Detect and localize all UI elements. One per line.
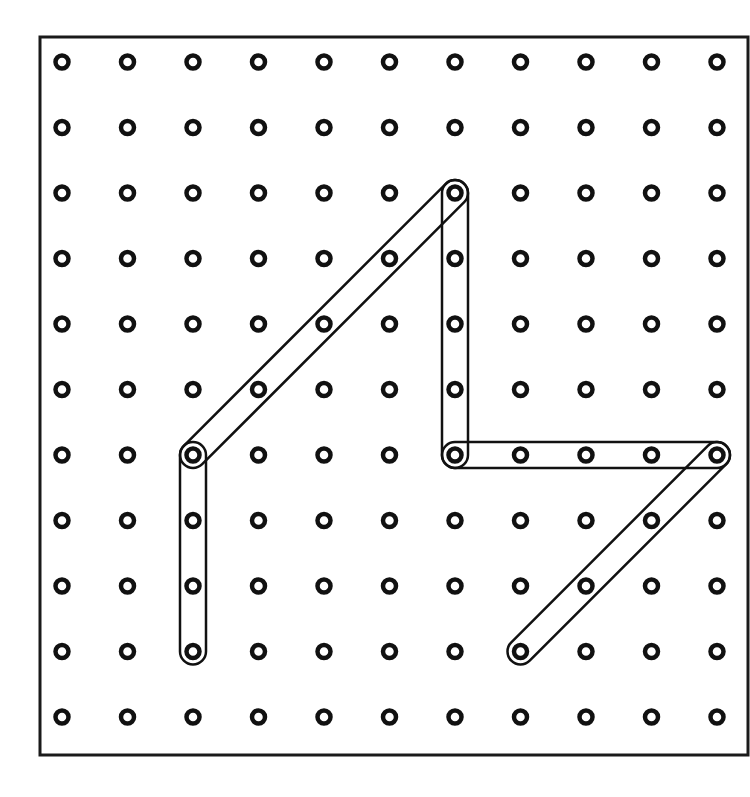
peg-icon bbox=[645, 121, 658, 134]
peg-icon bbox=[252, 56, 265, 69]
peg-icon bbox=[121, 56, 134, 69]
peg-icon bbox=[383, 580, 396, 593]
peg-icon bbox=[121, 711, 134, 724]
peg-icon bbox=[121, 514, 134, 527]
peg-icon bbox=[56, 252, 69, 265]
peg-icon bbox=[580, 252, 593, 265]
peg-icon bbox=[711, 711, 724, 724]
peg-icon bbox=[187, 383, 200, 396]
peg-icon bbox=[449, 514, 462, 527]
peg-icon bbox=[645, 318, 658, 331]
peg-icon bbox=[318, 449, 331, 462]
peg-icon bbox=[449, 187, 462, 200]
peg-icon bbox=[449, 56, 462, 69]
peg-icon bbox=[318, 318, 331, 331]
peg-icon bbox=[187, 252, 200, 265]
peg-icon bbox=[252, 252, 265, 265]
peg-icon bbox=[514, 318, 527, 331]
peg-icon bbox=[318, 56, 331, 69]
geoboard bbox=[0, 0, 750, 797]
peg-icon bbox=[318, 121, 331, 134]
peg-icon bbox=[449, 252, 462, 265]
peg-icon bbox=[252, 383, 265, 396]
peg-icon bbox=[645, 645, 658, 658]
peg-icon bbox=[56, 56, 69, 69]
peg-icon bbox=[121, 383, 134, 396]
peg-icon bbox=[121, 645, 134, 658]
peg-icon bbox=[514, 514, 527, 527]
peg-icon bbox=[56, 318, 69, 331]
peg-icon bbox=[252, 187, 265, 200]
peg-icon bbox=[449, 645, 462, 658]
peg-icon bbox=[514, 449, 527, 462]
peg-icon bbox=[383, 56, 396, 69]
peg-icon bbox=[383, 514, 396, 527]
peg-icon bbox=[187, 187, 200, 200]
peg-icon bbox=[187, 711, 200, 724]
peg-icon bbox=[383, 121, 396, 134]
peg-icon bbox=[449, 580, 462, 593]
peg-icon bbox=[252, 318, 265, 331]
peg-icon bbox=[187, 514, 200, 527]
peg-icon bbox=[580, 645, 593, 658]
peg-icon bbox=[645, 252, 658, 265]
peg-icon bbox=[318, 514, 331, 527]
peg-icon bbox=[187, 580, 200, 593]
peg-icon bbox=[580, 711, 593, 724]
peg-icon bbox=[121, 449, 134, 462]
peg-icon bbox=[514, 56, 527, 69]
peg-icon bbox=[318, 252, 331, 265]
peg-icon bbox=[252, 449, 265, 462]
peg-icon bbox=[383, 318, 396, 331]
peg-icon bbox=[383, 645, 396, 658]
peg-icon bbox=[711, 645, 724, 658]
peg-icon bbox=[56, 449, 69, 462]
peg-icon bbox=[121, 318, 134, 331]
peg-icon bbox=[187, 449, 200, 462]
peg-icon bbox=[645, 580, 658, 593]
peg-icon bbox=[56, 121, 69, 134]
peg-icon bbox=[580, 580, 593, 593]
peg-icon bbox=[645, 56, 658, 69]
peg-icon bbox=[318, 645, 331, 658]
peg-icon bbox=[56, 711, 69, 724]
peg-icon bbox=[711, 580, 724, 593]
peg-icon bbox=[580, 449, 593, 462]
peg-icon bbox=[121, 187, 134, 200]
peg-icon bbox=[711, 121, 724, 134]
peg-icon bbox=[580, 514, 593, 527]
peg-icon bbox=[514, 383, 527, 396]
peg-icon bbox=[383, 449, 396, 462]
peg-icon bbox=[56, 187, 69, 200]
band-diagonal-right bbox=[507, 442, 729, 664]
peg-icon bbox=[56, 383, 69, 396]
peg-icon bbox=[56, 645, 69, 658]
peg-icon bbox=[645, 383, 658, 396]
peg-icon bbox=[514, 121, 527, 134]
peg-icon bbox=[580, 187, 593, 200]
peg-icon bbox=[56, 580, 69, 593]
peg-icon bbox=[711, 514, 724, 527]
peg-icon bbox=[449, 449, 462, 462]
peg-icon bbox=[514, 645, 527, 658]
peg-icon bbox=[383, 711, 396, 724]
peg-icon bbox=[252, 711, 265, 724]
peg-icon bbox=[252, 514, 265, 527]
peg-icon bbox=[711, 449, 724, 462]
peg-icon bbox=[449, 121, 462, 134]
peg-icon bbox=[514, 711, 527, 724]
peg-icon bbox=[514, 580, 527, 593]
peg-icon bbox=[187, 318, 200, 331]
peg-icon bbox=[449, 318, 462, 331]
peg-icon bbox=[645, 187, 658, 200]
peg-icon bbox=[449, 711, 462, 724]
peg-icon bbox=[121, 121, 134, 134]
peg-icon bbox=[580, 121, 593, 134]
peg-icon bbox=[514, 252, 527, 265]
peg-icon bbox=[187, 56, 200, 69]
peg-icon bbox=[252, 645, 265, 658]
peg-grid bbox=[56, 56, 724, 724]
peg-icon bbox=[580, 318, 593, 331]
peg-icon bbox=[252, 580, 265, 593]
peg-icon bbox=[318, 711, 331, 724]
